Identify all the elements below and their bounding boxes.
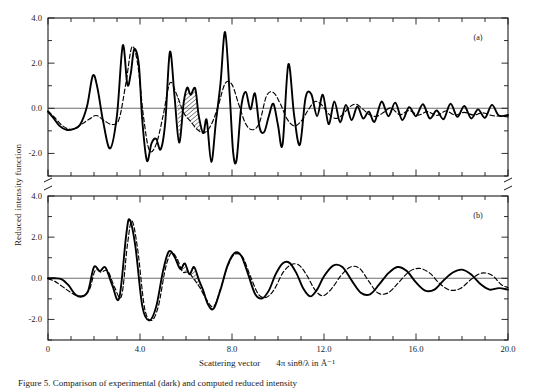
computed-curve bbox=[48, 46, 508, 152]
axis-break-stroke bbox=[504, 186, 512, 190]
panel-a: -2.00.02.04.0(a) bbox=[28, 13, 508, 176]
x-tick-label: 12.0 bbox=[316, 344, 331, 354]
y-tick-label: -2.0 bbox=[28, 314, 42, 324]
experimental-curve bbox=[48, 219, 508, 320]
panel-label: (b) bbox=[473, 211, 483, 220]
y-tick-label: 2.0 bbox=[31, 58, 42, 68]
panel-label: (a) bbox=[473, 33, 482, 42]
axis-break-stroke bbox=[44, 178, 52, 182]
x-tick-label: 20.0 bbox=[500, 344, 515, 354]
x-tick-label: 8.0 bbox=[227, 344, 238, 354]
difference-hatch-region bbox=[177, 258, 208, 304]
y-tick-label: 4.0 bbox=[31, 191, 42, 201]
y-tick-label: 4.0 bbox=[31, 13, 42, 23]
plot-svg: -2.00.02.04.0(a)-2.00.02.04.004.08.012.0… bbox=[0, 0, 534, 391]
y-tick-label: 2.0 bbox=[31, 232, 42, 242]
y-tick-label: -2.0 bbox=[28, 148, 42, 158]
axis-break-stroke bbox=[504, 178, 512, 182]
x-tick-label: 4.0 bbox=[135, 344, 146, 354]
figure-container: Reduced intensity function Scattering ve… bbox=[0, 0, 534, 391]
experimental-curve bbox=[48, 32, 508, 164]
axis-break-mark bbox=[44, 178, 52, 190]
x-tick-label: 16.0 bbox=[408, 344, 423, 354]
panel-frame bbox=[48, 18, 508, 176]
x-tick-label: 0 bbox=[46, 344, 50, 354]
y-tick-label: 0.0 bbox=[31, 103, 42, 113]
axis-break-mark bbox=[504, 178, 512, 190]
panel-b: -2.00.02.04.004.08.012.016.020.0(b) bbox=[28, 191, 515, 354]
axis-break-stroke bbox=[44, 186, 52, 190]
y-tick-label: 0.0 bbox=[31, 273, 42, 283]
